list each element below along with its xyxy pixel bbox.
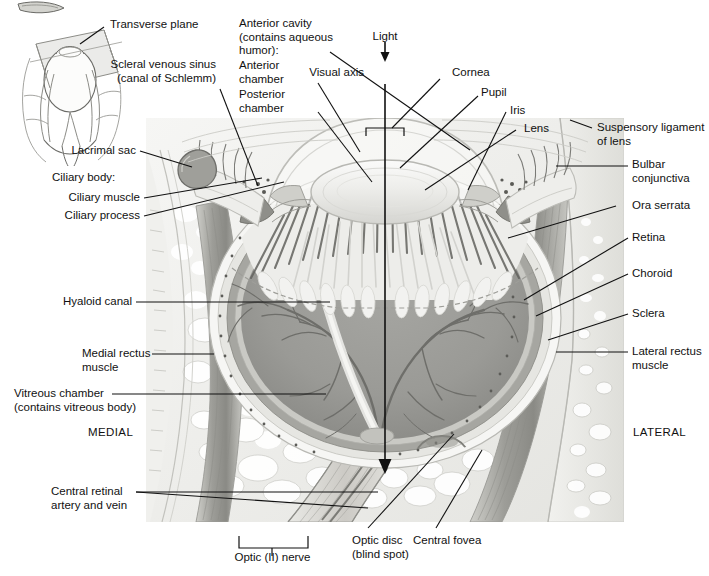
label-suspensory-ligament: Suspensory ligament of lens bbox=[597, 121, 704, 148]
label-ciliary-muscle: Ciliary muscle bbox=[0, 191, 140, 205]
label-ora-serrata: Ora serrata bbox=[632, 199, 690, 213]
optic-disc bbox=[360, 428, 394, 444]
label-bulbar-conjunctiva: Bulbar conjunctiva bbox=[632, 158, 690, 185]
label-sclera: Sclera bbox=[632, 307, 665, 321]
label-anterior-cavity: Anterior cavity (contains aqueous humor)… bbox=[239, 17, 333, 58]
eye-anatomy-figure: Transverse plane Lacrimal sac Scleral ve… bbox=[0, 0, 709, 576]
label-lacrimal-sac: Lacrimal sac bbox=[0, 144, 136, 158]
label-anterior-chamber: Anterior chamber bbox=[239, 59, 284, 86]
label-visual-axis: Visual axis bbox=[286, 66, 364, 80]
label-posterior-chamber: Posterior chamber bbox=[239, 88, 285, 115]
label-pupil: Pupil bbox=[481, 86, 507, 100]
label-iris: Iris bbox=[510, 104, 525, 118]
label-central-fovea: Central fovea bbox=[413, 534, 481, 548]
label-lens: Lens bbox=[524, 122, 549, 136]
label-ciliary-process: Ciliary process bbox=[0, 209, 140, 223]
label-medial-rectus-muscle: Medial rectus muscle bbox=[82, 347, 150, 374]
label-ciliary-body: Ciliary body: bbox=[52, 171, 115, 185]
label-choroid: Choroid bbox=[632, 267, 672, 281]
label-optic-nerve: Optic (II) nerve bbox=[206, 551, 339, 565]
label-cornea: Cornea bbox=[452, 66, 490, 80]
label-light: Light bbox=[353, 30, 417, 44]
label-central-retinal-vessels: Central retinal artery and vein bbox=[51, 485, 127, 512]
label-optic-disc: Optic disc (blind spot) bbox=[352, 534, 409, 561]
label-scleral-venous-sinus: Scleral venous sinus (canal of Schlemm) bbox=[0, 58, 216, 85]
label-lateral-rectus-muscle: Lateral rectus muscle bbox=[632, 345, 702, 372]
label-medial: MEDIAL bbox=[88, 426, 133, 440]
label-transverse-plane: Transverse plane bbox=[110, 18, 198, 32]
label-vitreous-chamber: Vitreous chamber (contains vitreous body… bbox=[14, 387, 136, 414]
label-hyaloid-canal: Hyaloid canal bbox=[0, 295, 132, 309]
label-lateral: LATERAL bbox=[633, 426, 686, 440]
label-retina: Retina bbox=[632, 231, 665, 245]
